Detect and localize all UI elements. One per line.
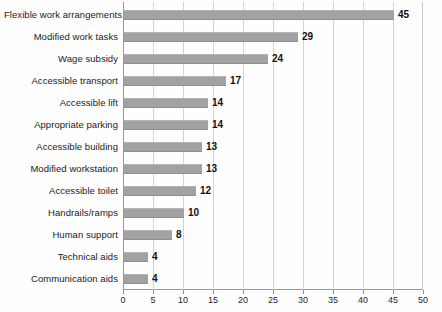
bar xyxy=(124,98,208,108)
category-label: Flexible work arrangements xyxy=(4,4,118,26)
bar-row: Human support8 xyxy=(0,224,442,246)
bar-row: Accessible building13 xyxy=(0,136,442,158)
x-tick-label: 5 xyxy=(150,295,155,305)
tick-20 xyxy=(243,290,244,294)
x-tick-label: 15 xyxy=(208,295,218,305)
bar xyxy=(124,76,226,86)
bar-row: Modified work tasks29 xyxy=(0,26,442,48)
x-tick-label: 40 xyxy=(358,295,368,305)
bar-row: Accessible lift14 xyxy=(0,92,442,114)
bar xyxy=(124,274,148,284)
category-label: Technical aids xyxy=(4,246,118,268)
x-tick-label: 35 xyxy=(328,295,338,305)
bar-row: Wage subsidy24 xyxy=(0,48,442,70)
bar xyxy=(124,186,196,196)
x-tick-label: 50 xyxy=(418,295,428,305)
bar-value-label: 4 xyxy=(152,246,158,268)
category-label: Modified workstation xyxy=(4,158,118,180)
bar-value-label: 4 xyxy=(152,268,158,290)
x-tick-label: 20 xyxy=(238,295,248,305)
category-label: Human support xyxy=(4,224,118,246)
tick-30 xyxy=(303,290,304,294)
bar-row: Appropriate parking14 xyxy=(0,114,442,136)
bar-value-label: 14 xyxy=(212,92,223,114)
tick-10 xyxy=(183,290,184,294)
bar-value-label: 45 xyxy=(398,4,409,26)
bar xyxy=(124,252,148,262)
bar xyxy=(124,142,202,152)
tick-45 xyxy=(393,290,394,294)
x-tick-label: 0 xyxy=(120,295,125,305)
bar-value-label: 12 xyxy=(200,180,211,202)
bar-value-label: 13 xyxy=(206,158,217,180)
bar-value-label: 14 xyxy=(212,114,223,136)
bar-row: Flexible work arrangements45 xyxy=(0,4,442,26)
x-tick-label: 45 xyxy=(388,295,398,305)
bar xyxy=(124,120,208,130)
category-label: Accessible lift xyxy=(4,92,118,114)
tick-5 xyxy=(153,290,154,294)
x-tick-label: 10 xyxy=(178,295,188,305)
x-tick-label: 30 xyxy=(298,295,308,305)
bar-value-label: 29 xyxy=(302,26,313,48)
bar xyxy=(124,230,172,240)
category-label: Communication aids xyxy=(4,268,118,290)
category-label: Appropriate parking xyxy=(4,114,118,136)
bar-value-label: 8 xyxy=(176,224,182,246)
category-label: Wage subsidy xyxy=(4,48,118,70)
x-tick-label: 25 xyxy=(268,295,278,305)
tick-50 xyxy=(423,290,424,294)
bar xyxy=(124,10,394,20)
bar-row: Technical aids4 xyxy=(0,246,442,268)
tick-40 xyxy=(363,290,364,294)
bar-row: Handrails/ramps10 xyxy=(0,202,442,224)
category-label: Accessible transport xyxy=(4,70,118,92)
bar-value-label: 13 xyxy=(206,136,217,158)
category-label: Modified work tasks xyxy=(4,26,118,48)
bar-chart: 05101520253035404550 Flexible work arran… xyxy=(0,0,442,312)
tick-15 xyxy=(213,290,214,294)
bar-value-label: 10 xyxy=(188,202,199,224)
tick-25 xyxy=(273,290,274,294)
category-label: Accessible building xyxy=(4,136,118,158)
bar-row: Communication aids4 xyxy=(0,268,442,290)
bar xyxy=(124,54,268,64)
bar xyxy=(124,32,298,42)
bar-value-label: 17 xyxy=(230,70,241,92)
tick-35 xyxy=(333,290,334,294)
bar-row: Accessible transport17 xyxy=(0,70,442,92)
tick-0 xyxy=(123,290,124,294)
bar-row: Modified workstation13 xyxy=(0,158,442,180)
bar xyxy=(124,164,202,174)
category-label: Accessible toilet xyxy=(4,180,118,202)
category-label: Handrails/ramps xyxy=(4,202,118,224)
bar-value-label: 24 xyxy=(272,48,283,70)
bar xyxy=(124,208,184,218)
bar-row: Accessible toilet12 xyxy=(0,180,442,202)
